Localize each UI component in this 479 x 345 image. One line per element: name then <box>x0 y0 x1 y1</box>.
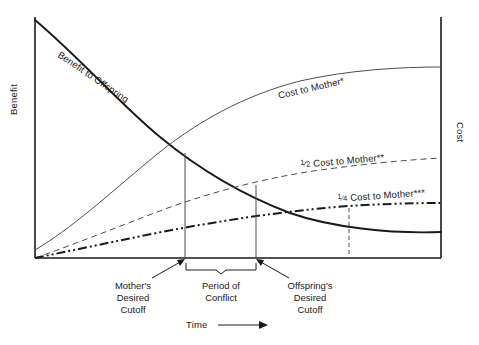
curve-half-cost-to-mother <box>35 158 441 258</box>
offspring-cutoff-line-1: Offspring's <box>272 280 348 292</box>
period-of-conflict-bracket <box>186 263 256 274</box>
period-line-1: Period of <box>185 280 257 292</box>
mothers-cutoff-line-1: Mother's <box>97 280 169 292</box>
half-fraction: 1⁄2 <box>300 159 311 169</box>
period-line-2: Conflict <box>185 292 257 304</box>
annotation-mothers-desired-cutoff: Mother's Desired Cutoff <box>97 280 169 316</box>
x-axis-label: Time <box>186 319 208 331</box>
mother-offspring-conflict-chart: Benefit Cost Time Benefit to Offspring C… <box>0 0 479 345</box>
y-axis-left-label: Benefit <box>8 84 20 115</box>
offspring-cutoff-leader-arrow <box>256 259 289 278</box>
y-axis-right-label: Cost <box>455 122 467 142</box>
time-arrow <box>218 321 268 329</box>
offspring-cutoff-line-2: Desired <box>272 292 348 304</box>
mothers-cutoff-line-3: Cutoff <box>97 304 169 316</box>
mothers-cutoff-leader-arrow <box>152 259 185 278</box>
quarter-fraction: 1⁄4 <box>337 194 348 204</box>
offspring-cutoff-line-3: Cutoff <box>272 304 348 316</box>
mothers-cutoff-line-2: Desired <box>97 292 169 304</box>
annotation-offspring-desired-cutoff: Offspring's Desired Cutoff <box>272 280 348 316</box>
annotation-period-of-conflict: Period of Conflict <box>185 280 257 304</box>
